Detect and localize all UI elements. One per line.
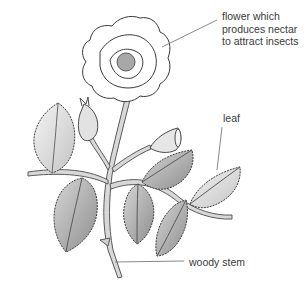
rose-diagram: flower which produces nectar to attract … bbox=[0, 0, 307, 289]
bud-right bbox=[150, 128, 181, 152]
stem-leader-line bbox=[115, 261, 184, 262]
flower-label-line-2: produces nectar bbox=[222, 23, 298, 36]
leaf-far-right bbox=[190, 167, 240, 208]
leaf-lower-left bbox=[54, 178, 97, 252]
bud-left bbox=[78, 97, 97, 141]
leaf-upper-left bbox=[34, 103, 75, 173]
leaf-right-lower bbox=[156, 200, 188, 256]
rose-flower bbox=[83, 16, 170, 101]
stem-label: woody stem bbox=[189, 256, 245, 269]
leaf-lower-middle bbox=[124, 184, 154, 244]
flower-leader-line bbox=[162, 20, 217, 47]
leaf-middle-right bbox=[142, 150, 193, 189]
flower-label-line-1: flower which bbox=[222, 10, 298, 23]
leaf-label: leaf bbox=[223, 112, 240, 125]
flower-label-line-3: to attract insects bbox=[222, 35, 298, 48]
leaf-leader-line bbox=[217, 127, 222, 170]
flower-label: flower which produces nectar to attract … bbox=[222, 10, 298, 48]
